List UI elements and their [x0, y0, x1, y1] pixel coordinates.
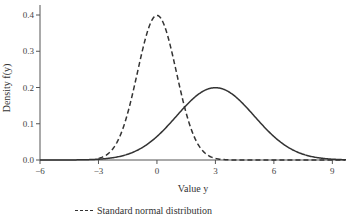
dashed-line-swatch-icon: [75, 210, 93, 211]
x-tick-label: 9: [330, 166, 335, 176]
legend-label: Standard normal distribution: [97, 205, 212, 216]
axes: 0.00.10.20.30.4−6−30369: [23, 5, 346, 176]
x-tick-label: 3: [213, 166, 218, 176]
y-tick-label: 0.4: [23, 10, 35, 20]
y-tick-label: 0.2: [23, 83, 34, 93]
y-axis-label: Density f(y): [1, 64, 13, 113]
x-tick-label: 6: [272, 166, 277, 176]
x-tick-label: 0: [155, 166, 160, 176]
legend: Standard normal distribution: [75, 205, 212, 216]
x-tick-label: −3: [94, 166, 104, 176]
density-chart: 0.00.10.20.30.4−6−30369 Value y Density …: [0, 0, 349, 200]
y-tick-label: 0.0: [23, 155, 35, 165]
x-tick-label: −6: [35, 166, 45, 176]
normal-mean3-curve: [40, 88, 346, 160]
y-tick-label: 0.3: [23, 46, 35, 56]
x-axis-label: Value y: [178, 183, 208, 194]
standard-normal-curve: [98, 15, 345, 160]
y-tick-label: 0.1: [23, 119, 34, 129]
